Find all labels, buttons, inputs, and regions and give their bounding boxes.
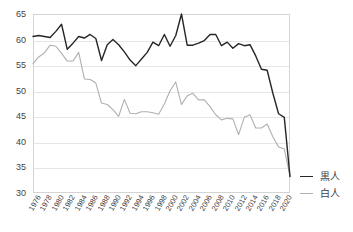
- y-tick-label: 30: [16, 189, 26, 198]
- series-layer: [33, 14, 290, 193]
- legend-item-1: 白人: [300, 185, 353, 202]
- series-line-black: [33, 14, 290, 177]
- y-tick-label: 65: [16, 10, 26, 19]
- series-line-white: [33, 45, 290, 176]
- y-tick-label: 40: [16, 138, 26, 147]
- chart-legend: 黒人 白人: [300, 168, 353, 202]
- y-axis-tick-labels: 6560555045403530: [0, 0, 30, 193]
- y-tick-label: 45: [16, 112, 26, 121]
- x-axis-tick-labels: 1976197819801982198419861988199019921994…: [33, 194, 290, 232]
- y-tick-label: 60: [16, 36, 26, 45]
- legend-label-black: 黒人: [320, 172, 340, 182]
- legend-swatch-black: [300, 176, 313, 177]
- line-chart: 6560555045403530 19761978198019821984198…: [0, 0, 353, 232]
- y-tick-label: 35: [16, 163, 26, 172]
- legend-label-white: 白人: [320, 189, 340, 199]
- y-tick-label: 50: [16, 87, 26, 96]
- legend-item-0: 黒人: [300, 168, 353, 185]
- legend-swatch-white: [300, 193, 313, 194]
- y-tick-label: 55: [16, 61, 26, 70]
